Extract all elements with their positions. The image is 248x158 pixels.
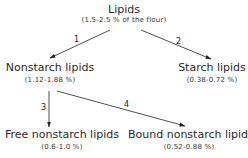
node-starch-range: (0.38-0.72 %) <box>172 76 248 85</box>
node-nonstarch-lipids: Nonstarch lipids (1.12-1.88 %) <box>0 62 100 85</box>
node-nonstarch-range: (1.12-1.88 %) <box>0 76 100 85</box>
node-free-title: Free nonstarch lipids <box>2 129 122 141</box>
node-nonstarch-title: Nonstarch lipids <box>0 62 100 74</box>
edge-1-label: 1 <box>74 35 79 44</box>
node-bound-nonstarch-lipids: Bound nonstarch lipids (0.52-0.88 %) <box>128 129 248 152</box>
node-starch-title: Starch lipids <box>172 62 248 74</box>
edge-1-arrow <box>50 30 110 58</box>
node-starch-lipids: Starch lipids (0.38-0.72 %) <box>172 62 248 85</box>
node-free-nonstarch-lipids: Free nonstarch lipids (0.6-1.0 %) <box>2 129 122 152</box>
edge-2-label: 2 <box>176 37 181 46</box>
node-free-range: (0.6-1.0 %) <box>2 143 122 152</box>
edge-4-label: 4 <box>124 100 129 109</box>
node-bound-range: (0.52-0.88 %) <box>128 143 248 152</box>
node-bound-title: Bound nonstarch lipids <box>128 129 248 141</box>
node-lipids-range: (1.5-2.5 % of the flour) <box>64 16 184 25</box>
edge-3-label: 3 <box>41 103 46 112</box>
node-lipids: Lipids (1.5-2.5 % of the flour) <box>64 4 184 25</box>
node-lipids-title: Lipids <box>64 4 184 16</box>
edge-4-arrow <box>57 91 185 126</box>
